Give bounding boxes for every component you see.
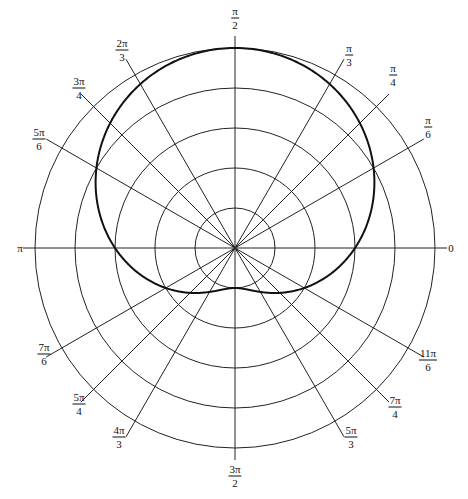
angle-label-0: 0 — [448, 243, 454, 254]
angle-label-270: 3π2 — [228, 464, 241, 489]
label-denominator: 4 — [392, 408, 398, 420]
label-text: 0 — [448, 242, 454, 254]
label-numerator: 11π — [419, 348, 437, 361]
label-denominator: 4 — [76, 405, 82, 417]
grid-ray-210 — [46, 248, 235, 357]
angle-label-135: 3π4 — [72, 76, 85, 101]
grid-ray-150 — [46, 139, 235, 248]
label-numerator: 7π — [388, 395, 401, 408]
label-denominator: 6 — [41, 355, 47, 367]
grid-ray-60 — [235, 59, 344, 248]
label-denominator: 4 — [390, 76, 396, 88]
angle-label-180: π — [17, 243, 23, 254]
label-numerator: 5π — [344, 425, 357, 438]
label-numerator: π — [424, 115, 432, 128]
angle-label-315: 7π4 — [388, 395, 401, 420]
label-denominator: 2 — [232, 477, 238, 489]
label-denominator: 2 — [232, 19, 238, 31]
angle-label-90: π2 — [231, 6, 239, 31]
angle-label-300: 5π3 — [344, 425, 357, 450]
label-numerator: π — [389, 63, 397, 76]
angle-label-45: π4 — [389, 63, 397, 88]
label-denominator: 4 — [76, 89, 82, 101]
label-text: π — [17, 242, 23, 254]
grid-ray-330 — [235, 248, 424, 357]
angle-label-120: 2π3 — [115, 38, 128, 63]
grid-ray-30 — [235, 139, 424, 248]
label-numerator: 5π — [72, 392, 85, 405]
label-numerator: 5π — [32, 127, 45, 140]
angular-grid-rays — [23, 36, 447, 460]
angle-label-30: π6 — [424, 115, 432, 140]
angle-label-240: 4π3 — [112, 425, 125, 450]
label-numerator: π — [345, 43, 353, 56]
label-numerator: 3π — [228, 464, 241, 477]
angle-label-150: 5π6 — [32, 127, 45, 152]
label-numerator: 7π — [37, 342, 50, 355]
grid-ray-120 — [126, 59, 235, 248]
polar-plot — [0, 0, 468, 499]
label-numerator: 3π — [72, 76, 85, 89]
label-numerator: 2π — [115, 38, 128, 51]
angle-label-210: 7π6 — [37, 342, 50, 367]
label-numerator: π — [231, 6, 239, 19]
label-denominator: 6 — [36, 140, 42, 152]
label-numerator: 4π — [112, 425, 125, 438]
label-denominator: 3 — [346, 56, 352, 68]
angle-label-225: 5π4 — [72, 392, 85, 417]
label-denominator: 6 — [425, 128, 431, 140]
label-denominator: 3 — [119, 51, 125, 63]
angle-label-60: π3 — [345, 43, 353, 68]
label-denominator: 3 — [116, 438, 122, 450]
angle-label-330: 11π6 — [419, 348, 437, 373]
label-denominator: 3 — [348, 438, 354, 450]
label-denominator: 6 — [425, 361, 431, 373]
